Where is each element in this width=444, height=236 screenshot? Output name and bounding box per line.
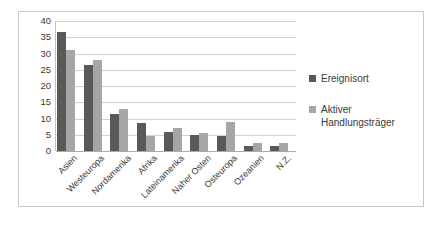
- x-axis-tick-labels: AsienWesteuropaNordamerikaAfrikaLateinam…: [55, 153, 355, 208]
- legend-item[interactable]: Ereignisort: [309, 72, 419, 85]
- bar-group: [268, 21, 295, 151]
- y-axis-tick-label: 20: [19, 81, 51, 91]
- y-axis-tick-label: 25: [19, 65, 51, 75]
- bar[interactable]: [173, 128, 182, 151]
- gridline: [56, 151, 296, 152]
- bar[interactable]: [190, 135, 199, 151]
- bar-group: [162, 21, 189, 151]
- y-axis-tick-label: 15: [19, 97, 51, 107]
- legend-swatch-icon: [309, 75, 316, 82]
- bar[interactable]: [226, 122, 235, 151]
- bar-group: [55, 21, 82, 151]
- bar[interactable]: [199, 133, 208, 151]
- legend-item-label: Ereignisort: [321, 72, 369, 85]
- bar-group: [188, 21, 215, 151]
- y-axis-tick-label: 0: [19, 146, 51, 156]
- legend-swatch-icon: [309, 106, 316, 113]
- y-axis-tick-label: 35: [19, 32, 51, 42]
- y-axis-tick-labels: 0510152025303540: [19, 12, 51, 160]
- bar-group: [135, 21, 162, 151]
- bar[interactable]: [84, 65, 93, 151]
- legend-item[interactable]: Aktiver Handlungsträger: [309, 103, 419, 129]
- bar[interactable]: [244, 146, 253, 151]
- bar-group: [108, 21, 135, 151]
- bar-group: [82, 21, 109, 151]
- chart-legend: Ereignisort Aktiver Handlungsträger: [309, 72, 419, 147]
- chart-container: 0510152025303540 AsienWesteuropaNordamer…: [18, 11, 424, 207]
- bar[interactable]: [217, 136, 226, 151]
- y-axis-tick-label: 40: [19, 16, 51, 26]
- bar[interactable]: [253, 143, 262, 151]
- y-axis-tick-label: 10: [19, 114, 51, 124]
- bar[interactable]: [110, 114, 119, 151]
- bar[interactable]: [137, 123, 146, 151]
- bar-group: [215, 21, 242, 151]
- bar[interactable]: [146, 136, 155, 151]
- bar[interactable]: [57, 32, 66, 151]
- y-axis-tick-label: 30: [19, 49, 51, 59]
- bar[interactable]: [93, 60, 102, 151]
- bar-group: [242, 21, 269, 151]
- bar[interactable]: [270, 146, 279, 151]
- bar[interactable]: [279, 143, 288, 151]
- legend-item-label: Aktiver Handlungsträger: [321, 103, 413, 129]
- bar[interactable]: [66, 50, 75, 151]
- y-axis-tick-label: 5: [19, 130, 51, 140]
- bar[interactable]: [119, 109, 128, 151]
- bar-series-layer: [55, 21, 295, 151]
- bar[interactable]: [164, 132, 173, 152]
